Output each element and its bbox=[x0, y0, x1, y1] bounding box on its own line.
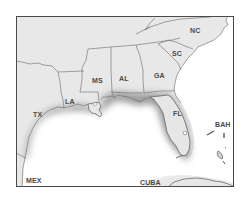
lake-pontchartrain bbox=[93, 103, 97, 106]
label-sc: SC bbox=[172, 50, 182, 57]
label-ga: GA bbox=[154, 72, 165, 79]
label-fl: FL bbox=[173, 110, 182, 117]
lake-okeechobee bbox=[183, 131, 187, 135]
label-bah: BAH bbox=[215, 121, 230, 128]
label-la: LA bbox=[65, 98, 75, 105]
label-cuba: CUBA bbox=[140, 179, 161, 186]
label-mex: MEX bbox=[26, 177, 42, 184]
label-tx: TX bbox=[33, 111, 42, 118]
map-body: NC SC GA AL MS LA TX FL BAH MEX CUBA bbox=[16, 16, 234, 188]
map-container: NC SC GA AL MS LA TX FL BAH MEX CUBA bbox=[0, 0, 249, 197]
label-nc: NC bbox=[190, 27, 200, 34]
label-al: AL bbox=[119, 75, 129, 82]
map-svg: NC SC GA AL MS LA TX FL BAH MEX CUBA bbox=[0, 0, 249, 197]
label-ms: MS bbox=[92, 77, 103, 84]
